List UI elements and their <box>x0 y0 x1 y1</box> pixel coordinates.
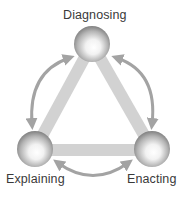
sphere-explaining-icon <box>17 131 53 167</box>
sphere-enacting-icon <box>134 131 170 167</box>
node-label-diagnosing: Diagnosing <box>63 9 127 22</box>
triangle-cycle-diagram: Diagnosing Explaining Enacting <box>0 0 185 197</box>
arrow-bottom-bidirectional-icon <box>58 163 128 176</box>
diagram-graphic <box>0 0 185 197</box>
node-label-explaining: Explaining <box>6 173 65 186</box>
sphere-diagnosing-icon <box>74 26 110 62</box>
node-label-enacting: Enacting <box>127 173 176 186</box>
